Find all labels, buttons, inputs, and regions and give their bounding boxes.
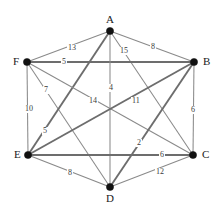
edge-weight-f-c: 11 [131,97,141,105]
edge-weight-e-c: 6 [159,151,165,159]
edge-weight-f-b: 5 [61,58,67,66]
vertex-label-f: F [13,56,19,67]
vertex-node-e[interactable] [24,151,31,158]
edge-d-b [110,62,194,187]
edge-weight-a-e: 14 [88,97,98,105]
edge-weight-f-d: 7 [43,86,49,94]
edge-weight-a-b: 8 [150,43,156,51]
vertex-node-a[interactable] [106,27,113,34]
vertex-label-d: D [106,193,114,204]
edge-d-c [110,155,193,187]
vertex-node-c[interactable] [189,151,196,158]
edge-weight-a-c: 15 [119,47,129,55]
edge-weight-e-b: 5 [42,127,48,135]
edge-weight-b-c: 6 [190,106,196,114]
vertex-label-b: B [203,56,210,67]
vertex-node-f[interactable] [23,58,30,65]
edge-weight-e-d: 8 [67,169,73,177]
edge-weight-d-b: 2 [136,139,142,147]
edge-weight-f-a: 13 [67,44,77,52]
edge-weight-d-c: 12 [155,168,165,176]
graph-diagram: ABCDEF 138155471014116526812 [0,0,221,214]
edge-weight-f-e: 10 [24,105,34,113]
vertex-label-e: E [14,149,21,160]
edges-group [27,31,194,187]
vertex-label-a: A [106,14,114,25]
edge-weight-a-d: 4 [108,84,114,92]
vertex-node-b[interactable] [190,58,197,65]
vertex-label-c: C [202,149,209,160]
vertex-node-d[interactable] [106,183,113,190]
